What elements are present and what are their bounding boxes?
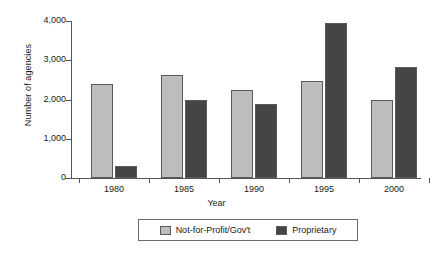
y-axis-line: [71, 21, 72, 179]
y-axis-tick-label: 1,000: [43, 133, 66, 143]
y-axis-tick-mark: [66, 21, 71, 22]
y-axis-tick-mark: [66, 178, 71, 179]
y-axis-tick-mark: [66, 139, 71, 140]
y-axis-tick-label: 0: [61, 172, 66, 182]
y-axis-tick-mark: [66, 60, 71, 61]
bar-group: [91, 21, 137, 178]
chart-legend: Not-for-Profit/Gov'tProprietary: [138, 219, 358, 241]
bar-chart-figure: Number of agencies 01,0002,0003,0004,000…: [0, 0, 433, 261]
x-axis-label: 1990: [224, 184, 284, 194]
plot-area: 01,0002,0003,0004,000 198019851990199520…: [71, 21, 420, 178]
legend-swatch-proprietary: [276, 226, 287, 235]
x-axis-tick-mark: [359, 178, 360, 183]
x-axis-tick-mark: [429, 178, 430, 183]
bar-group: [371, 21, 417, 178]
bar-group: [301, 21, 347, 178]
bar: [91, 84, 113, 178]
y-axis-tick-label: 4,000: [43, 15, 66, 25]
legend-swatch-not-for-profit: [160, 226, 171, 235]
y-axis-tick-mark: [66, 100, 71, 101]
legend-label: Not-for-Profit/Gov't: [176, 225, 251, 235]
bar: [231, 90, 253, 178]
bar: [161, 75, 183, 178]
legend-label: Proprietary: [292, 225, 336, 235]
bar: [371, 100, 393, 178]
bar: [395, 67, 417, 178]
bar: [301, 81, 323, 178]
y-axis-tick-label: 3,000: [43, 54, 66, 64]
bar-group: [161, 21, 207, 178]
bar: [115, 166, 137, 178]
x-axis-tick-mark: [149, 178, 150, 183]
x-axis-line: [65, 178, 421, 179]
x-axis-label: 1995: [294, 184, 354, 194]
bar: [325, 23, 347, 178]
legend-entry[interactable]: Proprietary: [276, 225, 336, 235]
x-axis-label: 1980: [84, 184, 144, 194]
bar: [185, 100, 207, 178]
bar: [255, 104, 277, 178]
x-axis-tick-mark: [219, 178, 220, 183]
legend-entry[interactable]: Not-for-Profit/Gov't: [160, 225, 251, 235]
x-axis-label: 2000: [364, 184, 424, 194]
y-axis-tick-label: 2,000: [43, 94, 66, 104]
x-axis-tick-mark: [79, 178, 80, 183]
y-axis-title: Number of agencies: [23, 10, 33, 160]
x-axis-title: Year: [0, 198, 433, 208]
x-axis-label: 1985: [154, 184, 214, 194]
bar-group: [231, 21, 277, 178]
x-axis-tick-mark: [289, 178, 290, 183]
